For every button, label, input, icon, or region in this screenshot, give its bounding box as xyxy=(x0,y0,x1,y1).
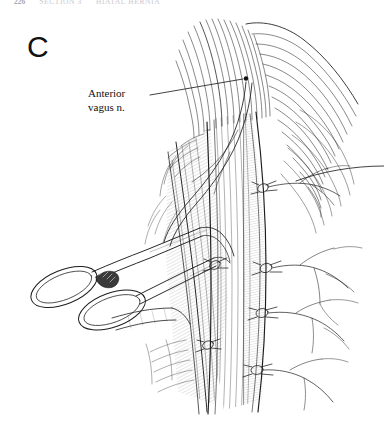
leader-endpoint-dot xyxy=(244,76,248,80)
leader-right-edge xyxy=(296,166,384,181)
figure-page: 226 SECTION 3 HIATAL HERNIA C Anterior v… xyxy=(0,0,384,425)
surgical-illustration xyxy=(0,0,384,425)
crural-muscle-fibers xyxy=(176,19,270,138)
ligature-1 xyxy=(251,166,350,205)
illustration-svg xyxy=(0,0,384,425)
clamp-ratchet-lock xyxy=(96,271,119,288)
clamp-ring-lower xyxy=(73,282,150,338)
fundus-lower-fan xyxy=(281,110,354,233)
